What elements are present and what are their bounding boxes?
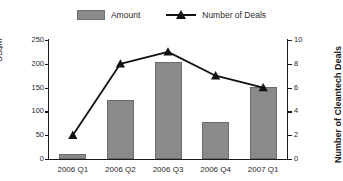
legend-label-amount: Amount <box>111 10 140 20</box>
chart-legend: Amount Number of Deals <box>0 10 343 20</box>
y-axis-right-tick-label: 4 <box>294 106 314 115</box>
y-axis-left-tick-label: 250 <box>18 35 44 44</box>
line-marker-icon <box>166 10 196 20</box>
legend-item-number-of-deals: Number of Deals <box>166 10 266 20</box>
plot-area: 050100150200250 0246810 <box>49 40 287 159</box>
y-axis-right-tick <box>287 88 292 89</box>
y-axis-right-tick <box>287 135 292 136</box>
bar-swatch-icon <box>77 10 105 20</box>
legend-label-number-of-deals: Number of Deals <box>202 10 266 20</box>
y-axis-left-tick-label: 200 <box>18 59 44 68</box>
y-axis-left-tick-label: 0 <box>18 154 44 163</box>
y-axis-right-tick-label: 2 <box>294 130 314 139</box>
y-axis-left-tick-label: 150 <box>18 83 44 92</box>
chart-container: Amount Number of Deals US$M Number of Cl… <box>0 0 343 181</box>
y-axis-right-tick <box>287 40 292 41</box>
y-axis-left-title: US$M <box>0 38 4 62</box>
y-axis-left-tick <box>45 159 49 160</box>
line-marker-2006-q4 <box>211 71 220 79</box>
x-axis-category-labels: 2006 Q12006 Q22006 Q32006 Q42007 Q1 <box>49 165 287 179</box>
y-axis-left-tick-label: 100 <box>18 106 44 115</box>
y-axis-right-tick-label: 0 <box>294 154 314 163</box>
line-series-number-of-deals <box>49 40 287 159</box>
y-axis-right-title: Number of Cleantech Deals <box>333 46 343 163</box>
y-axis-right-line <box>287 39 288 160</box>
x-axis-label-2006-q2: 2006 Q2 <box>94 165 146 174</box>
legend-triangle-marker-icon <box>176 10 186 19</box>
x-axis-label-2006-q1: 2006 Q1 <box>47 165 99 174</box>
line-marker-2006-q3 <box>163 47 172 55</box>
y-axis-right-tick-label: 6 <box>294 83 314 92</box>
x-axis-label-2006-q4: 2006 Q4 <box>190 165 242 174</box>
y-axis-left-tick-label: 50 <box>18 130 44 139</box>
y-axis-right-tick-label: 8 <box>294 59 314 68</box>
y-axis-right-tick <box>287 111 292 112</box>
legend-item-amount: Amount <box>77 10 140 20</box>
line-path-number-of-deals <box>73 52 263 135</box>
y-axis-right-tick <box>287 159 292 160</box>
x-axis-label-2006-q3: 2006 Q3 <box>142 165 194 174</box>
y-axis-right-tick <box>287 64 292 65</box>
y-axis-right-tick-label: 10 <box>294 35 314 44</box>
x-axis-label-2007-q1: 2007 Q1 <box>237 165 289 174</box>
